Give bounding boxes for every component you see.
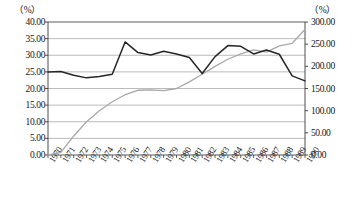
- gray-series-line: [48, 30, 305, 155]
- line-chart: （%） （%） 0.005.0010.0015.0020.0025.0030.0…: [0, 0, 354, 198]
- plot-area: [0, 0, 354, 198]
- dark-series-line: [48, 42, 305, 81]
